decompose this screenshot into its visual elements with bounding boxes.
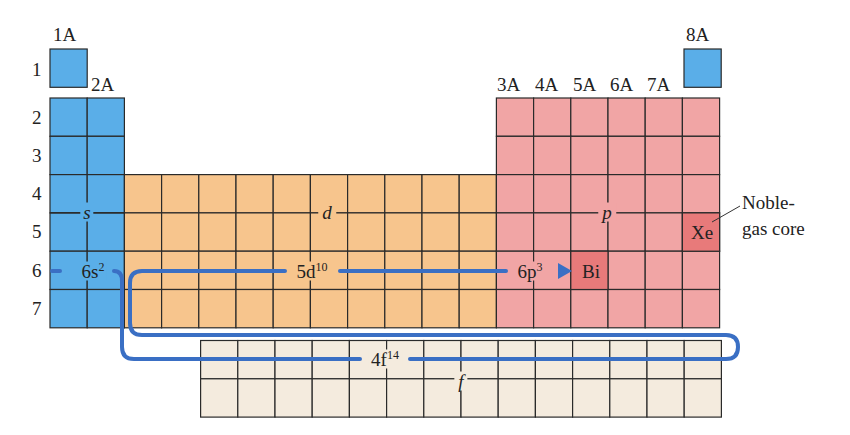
element-cell	[534, 290, 571, 328]
config-6p3-base: 6p	[518, 261, 537, 282]
element-cell	[682, 290, 719, 328]
element-cell	[684, 379, 721, 417]
element-cell	[387, 379, 424, 417]
element-cell	[199, 213, 236, 251]
config-4f14-sup: 14	[387, 348, 399, 362]
s-block-label: s	[80, 203, 93, 222]
periodic-table-diagram: 1A 2A 3A 4A 5A 6A 7A 8A 1 2 3 4 5 6 7 s …	[0, 0, 850, 435]
p-block-label: p	[598, 203, 616, 222]
period-label-7: 7	[32, 299, 42, 318]
element-bi: Bi	[582, 262, 600, 281]
period-label-3: 3	[32, 146, 42, 165]
element-cell	[312, 379, 349, 417]
element-cell	[422, 175, 459, 213]
f-block-label: f	[454, 372, 467, 391]
group-label-7a: 7A	[647, 75, 670, 94]
element-cell	[496, 175, 533, 213]
config-6s2-base: 6s	[82, 261, 99, 282]
element-cell	[50, 290, 87, 328]
element-cell	[87, 290, 124, 328]
element-cell	[534, 136, 571, 174]
period-label-6: 6	[32, 261, 42, 280]
element-cell	[682, 98, 719, 136]
element-cell	[87, 136, 124, 174]
config-6p3-sup: 3	[537, 260, 543, 274]
element-cell	[236, 290, 273, 328]
element-cell	[459, 175, 496, 213]
element-cell	[50, 98, 87, 136]
config-6p3: 6p3	[516, 262, 545, 281]
element-cell	[348, 213, 385, 251]
element-cell	[682, 175, 719, 213]
element-cell	[496, 290, 533, 328]
element-cell	[385, 290, 422, 328]
element-cell-h	[50, 49, 87, 87]
element-cell	[348, 290, 385, 328]
period-label-1: 1	[32, 60, 42, 79]
element-cell	[348, 175, 385, 213]
element-cell	[608, 136, 645, 174]
element-cell	[645, 213, 682, 251]
element-cell	[534, 175, 571, 213]
element-cell	[124, 213, 161, 251]
element-cell	[459, 290, 496, 328]
element-cell	[238, 379, 275, 417]
element-cell	[273, 290, 310, 328]
element-cell	[162, 290, 199, 328]
element-cell	[645, 251, 682, 289]
element-cell	[571, 136, 608, 174]
element-cell	[199, 175, 236, 213]
period-label-4: 4	[32, 184, 42, 203]
element-cell	[385, 175, 422, 213]
group-label-1a: 1A	[53, 25, 76, 44]
element-cell	[422, 213, 459, 251]
group-label-2a: 2A	[91, 75, 114, 94]
element-cell	[682, 136, 719, 174]
group-label-4a: 4A	[535, 75, 558, 94]
element-cell	[571, 290, 608, 328]
element-cell	[349, 379, 386, 417]
element-cell	[385, 213, 422, 251]
group-label-3a: 3A	[497, 75, 520, 94]
element-cell	[199, 290, 236, 328]
noble-gas-core-annotation-line1: Noble-	[742, 193, 795, 212]
d-block-label: d	[318, 203, 336, 222]
config-4f14-base: 4f	[371, 349, 387, 370]
config-5d10-sup: 10	[316, 260, 328, 274]
element-cell	[647, 379, 684, 417]
element-cell	[534, 98, 571, 136]
element-cell	[645, 290, 682, 328]
element-cell	[608, 251, 645, 289]
config-6s2: 6s2	[80, 262, 107, 281]
element-cell	[50, 136, 87, 174]
element-cell	[534, 213, 571, 251]
element-cell	[571, 98, 608, 136]
element-cell	[162, 213, 199, 251]
config-6s2-sup: 2	[98, 260, 104, 274]
group-label-5a: 5A	[573, 75, 596, 94]
element-cell	[496, 136, 533, 174]
element-cell	[236, 213, 273, 251]
element-cell	[645, 175, 682, 213]
element-cell	[608, 98, 645, 136]
element-cell	[610, 379, 647, 417]
element-cell	[310, 290, 347, 328]
element-cell	[496, 98, 533, 136]
element-cell	[275, 379, 312, 417]
element-xe: Xe	[691, 223, 713, 242]
element-cell	[124, 175, 161, 213]
element-cell	[87, 98, 124, 136]
period-label-2: 2	[32, 108, 42, 127]
element-cell	[162, 175, 199, 213]
element-cell	[608, 290, 645, 328]
element-cell-he	[684, 49, 721, 87]
diagram-canvas	[0, 0, 850, 435]
element-cell	[273, 213, 310, 251]
config-5d10: 5d10	[294, 262, 331, 281]
element-cell	[535, 379, 572, 417]
period-label-5: 5	[32, 222, 42, 241]
element-cell	[273, 175, 310, 213]
element-cell	[682, 251, 719, 289]
config-4f14: 4f14	[368, 350, 402, 369]
group-label-6a: 6A	[610, 75, 633, 94]
